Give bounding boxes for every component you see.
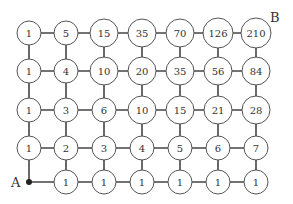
grid-node: 21 <box>204 96 232 124</box>
node-value: 1 <box>26 28 32 39</box>
node-value: 1 <box>63 177 69 188</box>
grid-node: 1 <box>206 170 230 194</box>
node-value: 28 <box>250 105 263 116</box>
grid-node: 4 <box>130 136 154 160</box>
grid-node: 1 <box>244 170 268 194</box>
grid-node: 6 <box>206 136 230 160</box>
node-value: 1 <box>101 177 107 188</box>
end-label: B <box>270 10 280 25</box>
grid-node: 126 <box>203 18 233 48</box>
node-value: 56 <box>212 66 225 77</box>
node-value: 3 <box>101 143 107 154</box>
grid-node: 84 <box>242 57 270 85</box>
start-label: A <box>10 175 21 190</box>
grid-node: 7 <box>244 136 268 160</box>
grid-node: 15 <box>90 19 118 47</box>
grid-node: 3 <box>54 98 78 122</box>
node-value: 6 <box>101 105 107 116</box>
grid-node: 5 <box>54 21 78 45</box>
grid-node: 2 <box>54 136 78 160</box>
grid-node: 4 <box>54 59 78 83</box>
node-value: 1 <box>26 66 32 77</box>
grid-node: 210 <box>241 18 271 48</box>
node-value: 35 <box>136 28 149 39</box>
grid-node: 1 <box>92 170 116 194</box>
node-value: 3 <box>63 105 69 116</box>
grid-node: 10 <box>128 96 156 124</box>
grid-node: 35 <box>166 57 194 85</box>
node-value: 21 <box>212 105 225 116</box>
node-value: 4 <box>63 66 69 77</box>
grid-node: 1 <box>17 59 41 83</box>
node-value: 1 <box>253 177 259 188</box>
node-value: 35 <box>174 66 187 77</box>
grid-node: 10 <box>90 57 118 85</box>
grid-node: 15 <box>166 96 194 124</box>
node-value: 10 <box>136 105 149 116</box>
grid-node: 6 <box>92 98 116 122</box>
grid-node: 35 <box>128 19 156 47</box>
node-value: 1 <box>177 177 183 188</box>
grid-node: 5 <box>168 136 192 160</box>
node-value: 5 <box>177 143 183 154</box>
node-value: 20 <box>136 66 149 77</box>
grid-node: 3 <box>92 136 116 160</box>
grid-node: 1 <box>168 170 192 194</box>
node-value: 1 <box>215 177 221 188</box>
node-value: 210 <box>246 28 265 39</box>
node-value: 126 <box>208 28 227 39</box>
grid-node: 70 <box>166 19 194 47</box>
grid-node: 56 <box>204 57 232 85</box>
grid-node: 1 <box>17 21 41 45</box>
node-value: 84 <box>250 66 263 77</box>
lattice-diagram: 1515357012621014102035568413610152128123… <box>0 0 293 204</box>
node-value: 1 <box>26 105 32 116</box>
grid-node: 1 <box>54 170 78 194</box>
grid-node: 28 <box>242 96 270 124</box>
node-value: 5 <box>63 28 69 39</box>
grid-node: 1 <box>17 98 41 122</box>
node-value: 4 <box>139 143 145 154</box>
start-point-A <box>26 179 32 185</box>
grid-node: 20 <box>128 57 156 85</box>
grid-node: 1 <box>130 170 154 194</box>
node-value: 1 <box>139 177 145 188</box>
grid-node: 1 <box>17 136 41 160</box>
node-value: 6 <box>215 143 221 154</box>
grid-nodes: 1515357012621014102035568413610152128123… <box>17 18 271 194</box>
node-value: 15 <box>98 28 111 39</box>
node-value: 15 <box>174 105 187 116</box>
node-value: 7 <box>253 143 259 154</box>
node-value: 1 <box>26 143 32 154</box>
node-value: 70 <box>174 28 187 39</box>
node-value: 2 <box>63 143 69 154</box>
node-value: 10 <box>98 66 111 77</box>
